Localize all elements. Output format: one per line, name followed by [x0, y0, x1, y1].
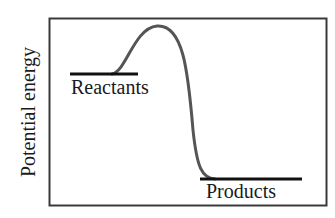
- y-axis-label: Potential energy: [17, 47, 40, 177]
- energy-curve: [112, 26, 215, 179]
- plot-frame: [50, 19, 327, 206]
- energy-diagram: Potential energy Reactants Products: [0, 0, 335, 218]
- products-label: Products: [206, 180, 276, 202]
- reactants-label: Reactants: [71, 76, 149, 98]
